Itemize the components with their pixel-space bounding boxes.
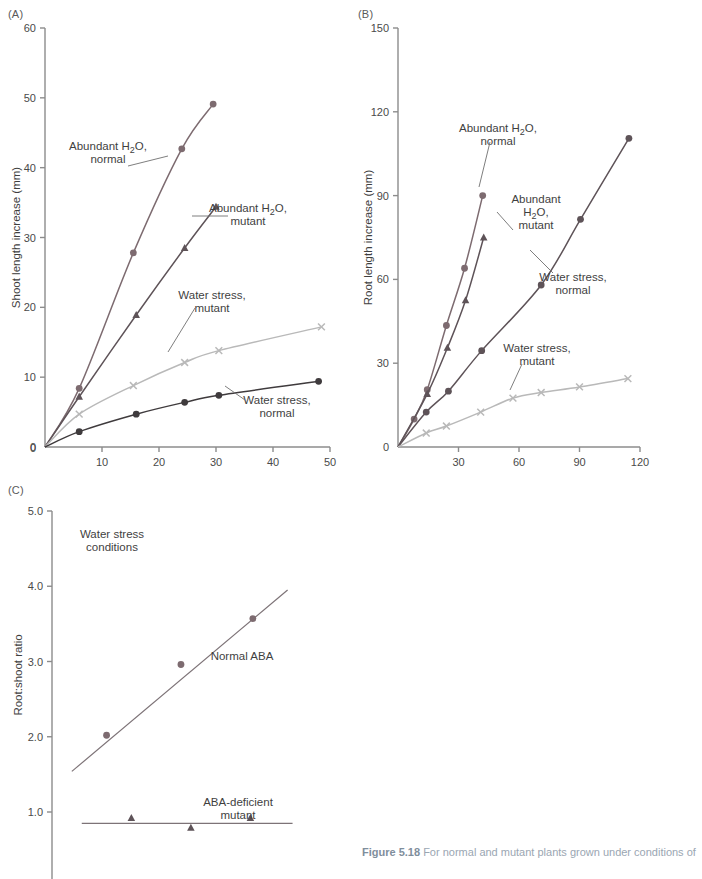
leader-abundant-normal — [479, 142, 490, 187]
leader-stress-mutant — [510, 364, 522, 390]
label-abundant-mutant: Abundant H2O,mutant — [209, 202, 287, 227]
data-point-3-3 — [181, 399, 188, 406]
data-point-0-2 — [249, 615, 256, 622]
label-aba-deficient-mutant: ABA-deficientmutant — [203, 796, 273, 821]
data-point-1-4 — [480, 233, 488, 240]
data-point-2-3 — [478, 347, 485, 354]
data-point-0-5 — [479, 192, 486, 199]
panel-a-chart: 010203040506010203040500Hours after tran… — [0, 0, 352, 478]
data-point-0-2 — [130, 249, 137, 256]
leader-stress-mutant — [168, 308, 195, 352]
label-stress-mutant: Water stress,mutant — [178, 289, 245, 314]
data-point-0-4 — [461, 265, 468, 272]
series-curve-0 — [45, 104, 213, 447]
figure-caption: Figure 5.18 For normal and mutant plants… — [362, 845, 702, 861]
label-abundant-mutant-line-0: Abundant — [511, 193, 561, 205]
figure-caption-text: For normal and mutant plants grown under… — [423, 846, 696, 858]
label-stress-normal-line-0: Water stress, — [243, 394, 310, 406]
x-tick-label: 90 — [573, 456, 585, 468]
y-axis-title: Root length increase (mm) — [362, 170, 374, 306]
y-tick-label: 60 — [377, 273, 389, 285]
leader-abundant-mutant — [497, 212, 513, 230]
data-point-2-3 — [181, 359, 188, 366]
panel-c-chart: 1.02.03.04.05.0Root:shoot ratioWater str… — [0, 478, 360, 879]
data-point-0-3 — [178, 145, 185, 152]
x-tick-label: 30 — [452, 456, 464, 468]
data-point-0-0 — [103, 732, 110, 739]
label-abundant-normal-line-1: normal — [480, 135, 515, 147]
data-point-2-2 — [130, 382, 137, 389]
label-abundant-mutant-line-2: mutant — [518, 219, 554, 231]
data-point-1-3 — [462, 296, 470, 303]
panel-c-series — [72, 590, 293, 831]
label-normal-aba-line-0: Normal ABA — [211, 650, 274, 662]
label-abundant-normal: Abundant H2O,normal — [69, 140, 147, 165]
label-water-stress-conditions-line-1: conditions — [86, 541, 138, 553]
series-curve-1 — [45, 207, 216, 447]
data-point-3-1 — [423, 430, 430, 437]
data-point-2-1 — [423, 409, 430, 416]
y-tick-label: 50 — [24, 92, 36, 104]
y-tick-label: 60 — [24, 22, 36, 34]
leader-abundant-normal — [128, 156, 168, 166]
x-axis-title: Hours after transplanting — [456, 477, 582, 478]
y-axis-title: Shoot length increase (mm) — [10, 167, 22, 308]
leader-stress-normal — [530, 250, 553, 273]
data-point-2-6 — [626, 135, 633, 142]
y-tick-label: 2.0 — [28, 731, 43, 743]
x-tick-label: 60 — [513, 456, 525, 468]
panel-a-letter: (A) — [8, 8, 23, 20]
panel-b: (B) 0306090120150306090120Hours after tr… — [350, 0, 702, 478]
y-tick-label: 40 — [24, 162, 36, 174]
data-point-3-2 — [133, 411, 140, 418]
data-point-0-3 — [443, 322, 450, 329]
label-abundant-normal-line-1: normal — [90, 153, 125, 165]
label-stress-normal-line-0: Water stress, — [539, 271, 606, 283]
label-aba-deficient-mutant-line-0: ABA-deficient — [203, 796, 273, 808]
data-point-1-1 — [187, 824, 195, 831]
panel-c-letter: (C) — [8, 484, 24, 496]
label-abundant-mutant-line-1: mutant — [230, 215, 266, 227]
data-point-0-4 — [210, 101, 217, 108]
figure-caption-label: Figure 5.18 — [362, 846, 420, 858]
data-point-3-1 — [76, 428, 83, 435]
data-point-0-1 — [76, 385, 83, 392]
panel-a: (A) 010203040506010203040500Hours after … — [0, 0, 352, 478]
label-stress-normal: Water stress,normal — [243, 394, 310, 419]
y-tick-label: 30 — [377, 357, 389, 369]
label-stress-mutant-line-0: Water stress, — [178, 289, 245, 301]
y-tick-label: 90 — [377, 190, 389, 202]
data-point-3-5 — [315, 378, 322, 385]
data-point-2-1 — [76, 411, 83, 418]
data-point-2-5 — [577, 216, 584, 223]
x-tick-label: 30 — [210, 456, 222, 468]
label-stress-mutant-line-1: mutant — [519, 355, 555, 367]
series-curve-3 — [398, 379, 628, 447]
y-tick-label: 5.0 — [28, 505, 43, 517]
label-aba-deficient-mutant-line-1: mutant — [220, 809, 256, 821]
label-stress-mutant: Water stress,mutant — [503, 342, 570, 367]
panel-b-letter: (B) — [358, 8, 373, 20]
y-tick-label: 20 — [24, 301, 36, 313]
leader-stress-normal — [225, 386, 245, 400]
data-point-1-0 — [128, 814, 136, 821]
data-point-0-1 — [178, 661, 185, 668]
label-water-stress-conditions: Water stressconditions — [80, 528, 144, 553]
y-tick-label: 4.0 — [28, 580, 43, 592]
label-abundant-normal: Abundant H2O,normal — [459, 122, 537, 147]
label-water-stress-conditions-line-0: Water stress — [80, 528, 144, 540]
label-abundant-mutant: AbundantH2O,mutant — [511, 193, 561, 231]
x-tick-label: 50 — [324, 456, 336, 468]
panel-c-axes: 1.02.03.04.05.0Root:shoot ratio — [12, 505, 52, 879]
label-stress-normal-line-1: normal — [555, 284, 590, 296]
data-point-2-2 — [445, 388, 452, 395]
label-stress-normal: Water stress,normal — [539, 271, 606, 296]
panel-b-series — [398, 135, 632, 447]
series-curve-2 — [398, 138, 629, 447]
data-point-3-4 — [215, 392, 222, 399]
y-tick-label: 1.0 — [28, 806, 43, 818]
label-stress-mutant-line-0: Water stress, — [503, 342, 570, 354]
label-stress-normal-line-1: normal — [259, 407, 294, 419]
panel-a-annotations: Abundant H2O,normalAbundant H2O,mutantWa… — [69, 140, 311, 419]
data-point-1-2 — [444, 344, 452, 351]
